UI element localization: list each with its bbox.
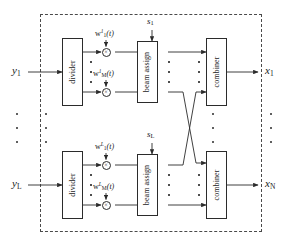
divider-label-bottom: divider: [69, 173, 77, 196]
combiner-block-bottom[interactable]: combiner: [206, 151, 227, 219]
divider-block-bottom[interactable]: divider: [62, 151, 83, 219]
ellipsis-divider-top-out: [88, 61, 94, 83]
combiner-block-top[interactable]: combiner: [206, 38, 227, 106]
weight-arg: (t): [107, 182, 115, 191]
combiner-label-top: combiner: [213, 56, 221, 87]
weight-arg: (t): [107, 142, 115, 151]
beam-assign-block-top[interactable]: beam assign: [137, 41, 158, 103]
multiplier-top-1[interactable]: ×: [102, 48, 111, 57]
control-signal-label-sL: sL: [147, 130, 155, 140]
weight-label-bottom-1: wL1(t): [95, 142, 114, 152]
beam-assign-label-top: beam assign: [144, 52, 152, 92]
input-sub: 1: [17, 69, 21, 78]
ellipsis-combiner-bottom-in: [196, 174, 202, 196]
multiplier-bottom-2[interactable]: ×: [102, 201, 111, 210]
control-signal-sub: L: [151, 132, 155, 139]
weight-label-top-1: w11(t): [95, 29, 114, 39]
ellipsis-beam-assign-top-out: [166, 61, 172, 83]
output-sub: N: [270, 182, 275, 191]
ellipsis-rows-right: [210, 113, 216, 143]
output-label-x1: x1: [265, 65, 274, 77]
ellipsis-rows-left: [43, 113, 49, 143]
output-sub: 1: [270, 69, 274, 78]
input-label-yL: yL: [12, 178, 21, 190]
combiner-label-bottom: combiner: [213, 169, 221, 200]
multiplier-bottom-1[interactable]: ×: [102, 161, 111, 170]
ellipsis-divider-bottom-out: [88, 174, 94, 196]
control-signal-sub: 1: [151, 19, 154, 26]
ellipsis-inputs: [14, 113, 20, 143]
input-sub: L: [17, 182, 22, 191]
ellipsis-combiner-top-in: [196, 61, 202, 83]
input-label-y1: y1: [12, 65, 21, 77]
beam-assign-block-bottom[interactable]: beam assign: [137, 154, 158, 216]
weight-label-top-2: w1M(t): [93, 69, 114, 79]
multiplier-top-2[interactable]: ×: [102, 88, 111, 97]
control-signal-label-s1: s1: [147, 17, 154, 27]
divider-block-top[interactable]: divider: [62, 38, 83, 106]
diagram-canvas: divider beam assign combiner × × w11(t) …: [0, 0, 290, 249]
beam-assign-label-bottom: beam assign: [144, 165, 152, 205]
output-label-xN: xN: [265, 178, 275, 190]
divider-label-top: divider: [69, 60, 77, 83]
weight-arg: (t): [106, 29, 114, 38]
weight-label-bottom-2: wLM(t): [93, 182, 114, 192]
ellipsis-outputs: [268, 113, 274, 143]
ellipsis-beam-assign-bottom-out: [166, 174, 172, 196]
weight-arg: (t): [106, 69, 114, 78]
